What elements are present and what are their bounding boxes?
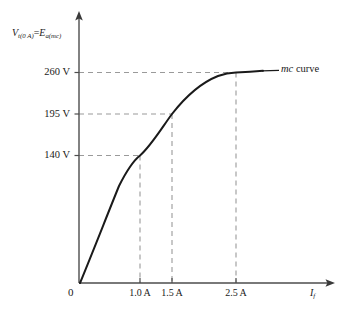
x-axis-title-i-subscript: f bbox=[313, 292, 315, 299]
x-axis-title: If bbox=[310, 288, 315, 300]
mc-curve-label-roman: curve bbox=[293, 63, 319, 74]
x-tick-label-2-5a: 2.5 A bbox=[214, 288, 258, 298]
guide-lines bbox=[79, 73, 236, 284]
y-tick-label-195: 195 V bbox=[26, 109, 70, 120]
curve-label-leader bbox=[262, 70, 279, 71]
y-axis-title-e-subscript: a(mc) bbox=[45, 32, 61, 39]
axes-group bbox=[79, 18, 328, 283]
y-tick-label-260: 260 V bbox=[26, 67, 70, 78]
magnetization-curve-figure: Vt(0 A)=Ea(mc) 260 V 195 V 140 V 1.0 A 1… bbox=[0, 0, 354, 317]
mc-curve-label-italic: mc bbox=[281, 63, 293, 74]
y-tick-label-140: 140 V bbox=[26, 150, 70, 161]
y-axis-title: Vt(0 A)=Ea(mc) bbox=[12, 28, 61, 40]
x-tick-marks bbox=[140, 278, 236, 283]
mc-curve-label: mc curve bbox=[281, 64, 319, 75]
origin-label: 0 bbox=[68, 287, 74, 298]
x-tick-label-1-5a: 1.5 A bbox=[150, 288, 194, 298]
y-axis-title-v-subscript: t(0 A) bbox=[18, 32, 34, 39]
